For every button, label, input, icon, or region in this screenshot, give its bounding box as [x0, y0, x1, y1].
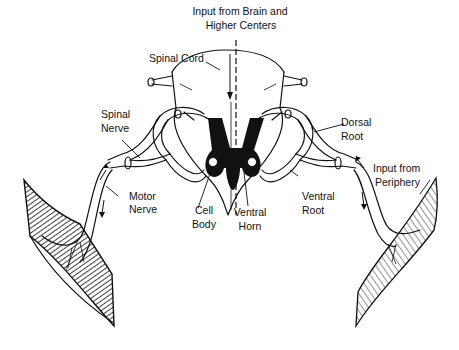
- label-ventral-root: Ventral: [302, 190, 335, 202]
- label-cell-body: Cell: [195, 204, 213, 216]
- label-input-brain: Input from Brain and: [192, 5, 287, 17]
- spinal-reflex-diagram: Input from Brain and Higher Centers Spin…: [0, 0, 459, 350]
- label-dorsal-root: Dorsal: [341, 116, 371, 128]
- left-muscle: [24, 180, 114, 326]
- label-ventral-root: Root: [302, 204, 324, 216]
- spinal-cord: [148, 50, 307, 215]
- label-motor-nerve: Nerve: [129, 203, 157, 215]
- label-spinal-nerve: Nerve: [101, 122, 129, 134]
- label-dorsal-root: Root: [341, 130, 363, 142]
- label-motor-nerve: Motor: [129, 190, 156, 202]
- label-ventral-horn: Ventral: [234, 206, 267, 218]
- label-cell-body: Body: [192, 218, 217, 230]
- label-input-periphery: Periphery: [375, 176, 421, 188]
- label-input-periphery: Input from: [373, 162, 421, 174]
- label-spinal-cord: Spinal Cord: [149, 52, 204, 64]
- label-input-brain: Higher Centers: [206, 19, 277, 31]
- right-muscle: [356, 178, 437, 326]
- cell-body-left: [209, 158, 218, 167]
- cell-body-right: [248, 158, 257, 167]
- label-spinal-nerve: Spinal: [101, 108, 130, 120]
- gray-matter-ventral-horn: [205, 118, 264, 190]
- label-ventral-horn: Horn: [239, 220, 262, 232]
